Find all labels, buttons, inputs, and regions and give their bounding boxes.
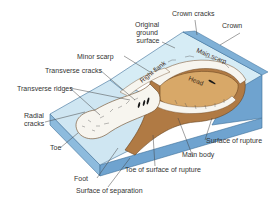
label-radial-cracks: Radial cracks [24,112,46,127]
label-transverse-cracks: Transverse cracks [45,67,102,74]
label-crown-cracks: Crown cracks [172,10,215,17]
label-crown: Crown [222,22,242,29]
label-transverse-ridges: Transverse ridges [17,85,73,93]
label-toe: Toe [50,144,61,151]
landslide-diagram: Main scarp Right flank Head Original gro… [0,0,279,198]
label-surface-of-separation: Surface of separation [76,187,143,195]
label-foot: Foot [74,175,88,182]
label-toe-of-surface-of-rupture: Toe of surface of rupture [125,166,201,174]
label-original-ground-surface: Original ground surface [135,21,161,44]
label-surface-of-rupture: Surface of rupture [206,137,262,145]
label-minor-scarp: Minor scarp [77,53,114,61]
label-main-body: Main body [182,151,215,159]
